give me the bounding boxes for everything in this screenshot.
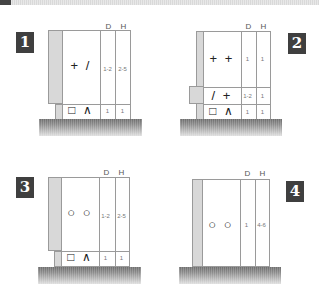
row-d-value: 1-2: [98, 213, 113, 219]
row-h-value: 1: [114, 255, 129, 261]
top-bar: [0, 0, 319, 5]
row-symbols: □ ∧: [62, 103, 100, 117]
row-d-value: 1: [240, 109, 255, 115]
ground: [180, 119, 282, 136]
panel-badge: 3: [16, 177, 34, 198]
row-h-value: 4-6: [254, 222, 269, 228]
row-h-value: 2-5: [115, 66, 130, 72]
row-h-value: 1: [255, 93, 270, 99]
row-d-value: 1: [100, 108, 115, 114]
row-h-value: 1: [255, 56, 270, 62]
wall-bump-strip: [189, 86, 204, 104]
column-header-d: D: [99, 168, 114, 177]
ground: [39, 119, 142, 136]
ground: [179, 267, 281, 284]
row-d-value: 1: [239, 222, 254, 228]
row-symbols: ○ ○: [202, 217, 240, 232]
row-d-value: 1-2: [240, 93, 255, 99]
row-d-value: 1: [98, 255, 113, 261]
column-header-d: D: [241, 22, 256, 31]
wall-strip: [48, 177, 62, 251]
row-symbols: + +: [203, 51, 241, 66]
ground: [38, 267, 141, 284]
row-h-value: 1: [115, 108, 130, 114]
column-header-h: H: [255, 169, 270, 178]
row-symbols: ○ ○: [61, 205, 99, 220]
column-header-h: H: [256, 22, 271, 31]
column-header-h: H: [114, 168, 129, 177]
row-symbols: + /: [62, 58, 100, 73]
row-d-value: 1: [240, 56, 255, 62]
panel-badge: 2: [288, 33, 306, 54]
row-symbols: □ ∧: [61, 250, 99, 264]
row-h-value: 2-5: [114, 213, 129, 219]
panel-badge: 1: [16, 32, 34, 53]
row-symbols: □ ∧: [203, 104, 241, 118]
row-symbols: / +: [203, 88, 241, 103]
panel-badge: 4: [286, 181, 304, 202]
column-header-d: D: [240, 169, 255, 178]
top-bar-marker: [0, 0, 11, 5]
wall-strip: [48, 30, 63, 104]
row-d-value: 1-2: [100, 66, 115, 72]
row-h-value: 1: [255, 109, 270, 115]
